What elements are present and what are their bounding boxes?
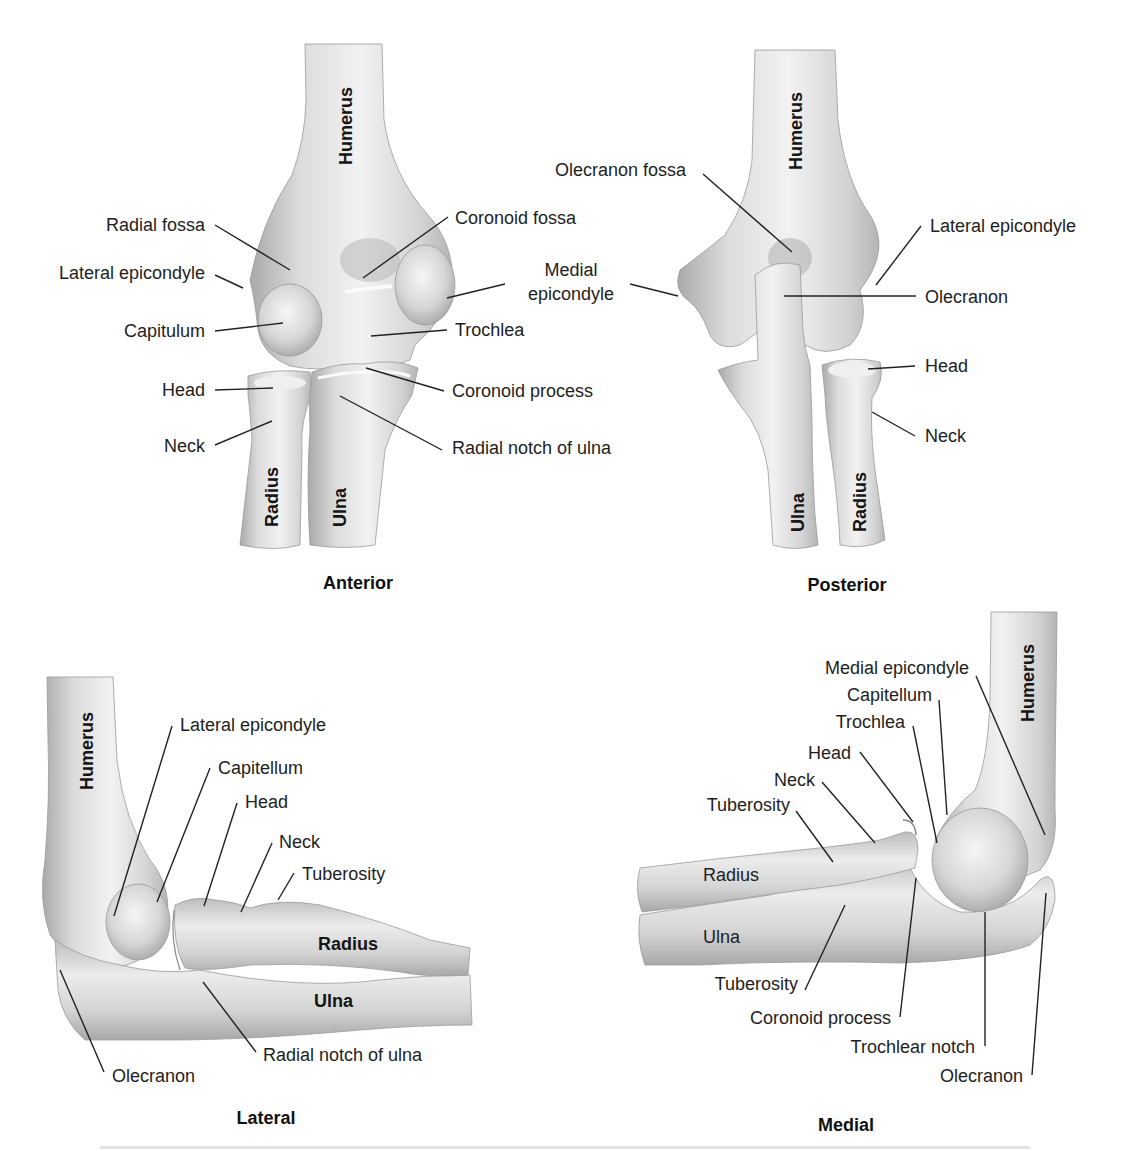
lateral-label-head: Head [245, 792, 288, 812]
anterior-radius-label: Radius [262, 467, 282, 527]
medial-humerus-label: Humerus [1018, 644, 1038, 722]
posterior-label-olecranon-fossa: Olecranon fossa [555, 160, 687, 180]
posterior-humerus-label: Humerus [786, 92, 806, 170]
medial-label-trochlea: Trochlea [836, 712, 906, 732]
anterior-label-lateral-epicondyle: Lateral epicondyle [59, 263, 205, 283]
anterior-coronoid-fossa-shade [340, 238, 400, 282]
anterior-label-coronoid-fossa: Coronoid fossa [455, 208, 577, 228]
posterior-radius-label: Radius [850, 472, 870, 532]
lateral-label-capitellum: Capitellum [218, 758, 303, 778]
anterior-label-head: Head [162, 380, 205, 400]
posterior-view-title: Posterior [807, 575, 886, 595]
medial-label-capitellum: Capitellum [847, 685, 932, 705]
medial-label-olecranon: Olecranon [940, 1066, 1023, 1086]
lateral-label-radial-notch-of-ulna: Radial notch of ulna [263, 1045, 423, 1065]
anterior-label-coronoid-process: Coronoid process [452, 381, 593, 401]
posterior-view: Humerus Ulna Radius Olecranon fossa Medi… [528, 50, 1076, 595]
lateral-label-tuberosity: Tuberosity [302, 864, 385, 884]
posterior-ulna-label: Ulna [788, 492, 808, 532]
anterior-label-neck: Neck [164, 436, 206, 456]
posterior-radial-head-top [828, 362, 876, 378]
medial-ulna-label: Ulna [703, 927, 741, 947]
anterior-label-radial-notch-of-ulna: Radial notch of ulna [452, 438, 612, 458]
medial-view-title: Medial [818, 1115, 874, 1135]
medial-label-tuberosity-ulna: Tuberosity [715, 974, 798, 994]
lateral-ulna-label: Ulna [314, 991, 354, 1011]
medial-trochlea-shape [932, 808, 1028, 912]
lateral-radius-label: Radius [318, 934, 378, 954]
anterior-medial-epicondyle-shape [395, 245, 455, 325]
anterior-capitulum-shape [258, 284, 322, 356]
posterior-label-medial-epicondyle-line2: epicondyle [528, 284, 614, 304]
lateral-label-lateral-epicondyle: Lateral epicondyle [180, 715, 326, 735]
medial-label-neck: Neck [774, 770, 816, 790]
anterior-view-title: Anterior [323, 573, 393, 593]
medial-label-tuberosity-radius: Tuberosity [707, 795, 790, 815]
lateral-view: Humerus Radius Ulna Lateral epicondyle C… [42, 677, 472, 1128]
lateral-humerus-label: Humerus [77, 712, 97, 790]
medial-label-trochlear-notch: Trochlear notch [851, 1037, 975, 1057]
posterior-label-neck: Neck [925, 426, 967, 446]
posterior-label-head: Head [925, 356, 968, 376]
posterior-label-lateral-epicondyle: Lateral epicondyle [930, 216, 1076, 236]
medial-label-head: Head [808, 743, 851, 763]
anterior-ulna-label: Ulna [330, 487, 350, 527]
anterior-ulna-shape [308, 362, 418, 548]
anterior-label-capitulum: Capitulum [124, 321, 205, 341]
elbow-anatomy-figure: Humerus Radius Ulna Radial fossa Lateral… [0, 0, 1131, 1151]
cropped-caption-remnant [100, 1146, 1030, 1149]
medial-label-medial-epicondyle: Medial epicondyle [825, 658, 969, 678]
posterior-label-medial-epicondyle-line1: Medial [544, 260, 597, 280]
lateral-label-olecranon: Olecranon [112, 1066, 195, 1086]
medial-label-coronoid-process: Coronoid process [750, 1008, 891, 1028]
anterior-label-trochlea: Trochlea [455, 320, 525, 340]
lateral-label-neck: Neck [279, 832, 321, 852]
medial-view: Humerus Radius Ulna Medial epicondyle Ca… [637, 612, 1057, 1135]
anterior-view: Humerus Radius Ulna Radial fossa Lateral… [59, 44, 612, 593]
anterior-label-radial-fossa: Radial fossa [106, 215, 206, 235]
medial-radius-label: Radius [703, 865, 759, 885]
lateral-view-title: Lateral [236, 1108, 295, 1128]
anterior-humerus-label: Humerus [336, 87, 356, 165]
posterior-label-olecranon: Olecranon [925, 287, 1008, 307]
lateral-capitellum-shape [106, 884, 170, 960]
